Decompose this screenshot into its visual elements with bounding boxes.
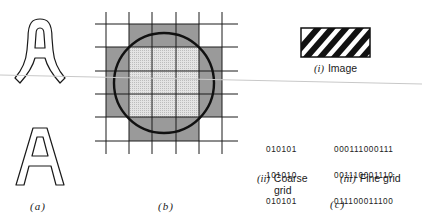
plain-letter-a bbox=[16, 128, 64, 185]
panel-label-a: (a) bbox=[30, 200, 46, 212]
shaded-cells bbox=[106, 24, 222, 141]
hatched-image bbox=[285, 20, 409, 66]
image-caption-numeral: (i) bbox=[314, 63, 324, 74]
coarse-row: 010101 bbox=[266, 146, 297, 155]
fine-caption-text: Fine grid bbox=[360, 172, 401, 184]
fine-caption-numeral: (iii) bbox=[340, 173, 356, 184]
coarse-caption-line1: Coarse bbox=[274, 172, 308, 184]
fine-grid-caption: (iii)Fine grid bbox=[340, 172, 401, 185]
coarse-caption-line2: grid bbox=[274, 184, 292, 196]
fine-row: 000111000111 bbox=[334, 146, 394, 155]
image-caption: (i)Image bbox=[314, 62, 357, 75]
panel-label-c: (c) bbox=[330, 198, 345, 210]
stylized-letter-a bbox=[15, 19, 65, 83]
coarse-row: 010101 bbox=[266, 198, 297, 207]
image-caption-text: Image bbox=[328, 62, 357, 74]
coarse-caption-numeral: (ii) bbox=[257, 173, 270, 184]
coarse-grid-caption-2: grid bbox=[274, 184, 292, 196]
panel-label-b: (b) bbox=[158, 200, 174, 212]
